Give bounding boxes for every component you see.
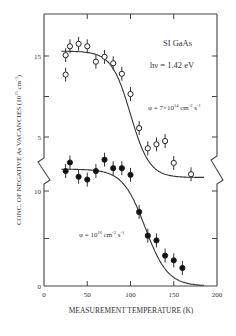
data-point [137,121,142,135]
data-point [85,39,90,53]
x-tick-label: 0 [42,291,46,299]
data-point [171,253,176,267]
data-point [119,67,124,81]
x-tick-label: 100 [125,291,136,299]
x-tick-label: 50 [84,291,92,299]
data-point [111,56,116,70]
data-point [128,168,133,182]
data-point [154,137,159,151]
data-point [63,68,68,82]
data-point [63,48,68,62]
y-tick-label: 0 [38,283,42,291]
data-point [67,156,72,170]
data-point [119,161,124,175]
y-tick-label: 15 [34,53,42,61]
data-point [102,153,107,167]
data-point [85,173,90,187]
data-point [128,87,133,101]
data-point [163,134,168,148]
chart: 050100150200515010 SI GaAs hν = 1.42 eV … [0,0,236,336]
annotation-flux-open: φ = 7×1014 cm-2 s-1 [148,103,201,112]
data-point [188,167,193,181]
axis-ticks [44,14,217,286]
data-point [154,233,159,247]
data-point [93,164,98,178]
x-tick-label: 150 [169,291,180,299]
data-point [180,261,185,275]
data-point [145,141,150,155]
x-axis-label: MEASUREMENT TEMPERATURE (K) [69,306,194,315]
fit-curve-open [61,51,204,177]
data-point [111,161,116,175]
data-point [102,50,107,64]
series-filled-circles [63,153,185,275]
data-point [93,55,98,69]
data-point [76,170,81,184]
data-point [63,164,68,178]
data-point [171,156,176,170]
annotation-sample: SI GaAs [163,38,192,48]
x-tick-label: 200 [212,291,223,299]
y-tick-label: 5 [38,134,42,142]
y-tick-label: 10 [34,188,42,196]
y-axis-label: CONC. OF NEGATIVE As VACANCIES (1015 cm-… [14,74,23,225]
data-point [76,37,81,51]
series-open-circles [63,37,194,181]
annotation-flux-filled: φ = 1016 cm-2 s-1 [79,230,124,239]
annotation-photon-energy: hν = 1.42 eV [150,60,195,70]
data-point [163,249,168,263]
